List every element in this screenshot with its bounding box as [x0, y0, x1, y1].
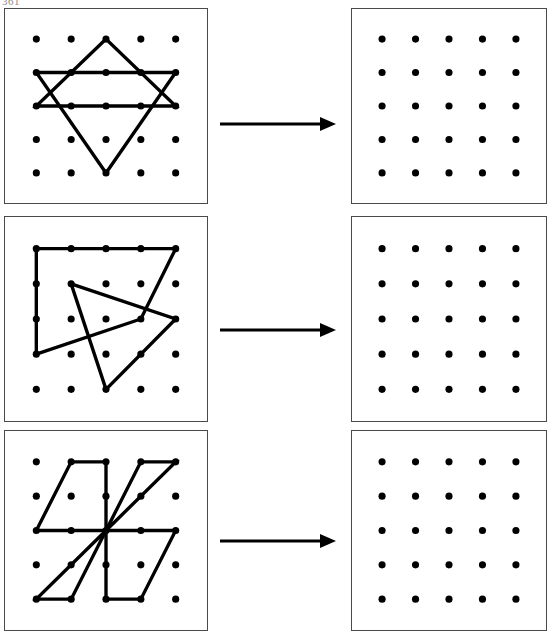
- answer-svg-row-2: [352, 217, 546, 421]
- grid-dot: [512, 169, 519, 176]
- grid-dot: [102, 596, 109, 603]
- grid-dot: [445, 315, 452, 322]
- grid-dot: [412, 169, 419, 176]
- grid-dot: [102, 458, 109, 465]
- grid-dot: [379, 102, 386, 109]
- grid-dot: [172, 596, 179, 603]
- grid-dot: [412, 102, 419, 109]
- right-arrow-icon: [218, 318, 338, 342]
- right-arrow-row-1: [218, 112, 338, 136]
- grid-dot: [102, 527, 109, 534]
- grid-dot: [172, 280, 179, 287]
- right-arrow-icon: [218, 112, 338, 136]
- grid-dot: [137, 458, 144, 465]
- grid-dot: [172, 493, 179, 500]
- grid-dot: [102, 102, 109, 109]
- answer-panel-blank-grid-3[interactable]: [351, 430, 547, 631]
- grid-dot: [512, 561, 519, 568]
- grid-dot: [68, 493, 75, 500]
- grid-dot: [412, 315, 419, 322]
- grid-dot: [412, 596, 419, 603]
- grid-dot: [412, 245, 419, 252]
- grid-dot: [445, 169, 452, 176]
- grid-dot: [33, 136, 40, 143]
- grid-dot: [379, 169, 386, 176]
- grid-dot: [68, 527, 75, 534]
- grid-dot: [172, 527, 179, 534]
- grid-dot: [137, 351, 144, 358]
- grid-dot: [33, 493, 40, 500]
- grid-dot: [68, 561, 75, 568]
- grid-dot: [479, 280, 486, 287]
- grid-dot: [479, 493, 486, 500]
- grid-dot: [445, 596, 452, 603]
- grid-dot: [379, 36, 386, 43]
- grid-dot: [379, 351, 386, 358]
- grid-dot: [172, 102, 179, 109]
- grid-dot: [33, 102, 40, 109]
- grid-dot: [412, 136, 419, 143]
- grid-dot: [137, 596, 144, 603]
- right-arrow-row-3: [218, 529, 338, 553]
- answer-panel-blank-grid-1[interactable]: [351, 8, 547, 204]
- grid-dot: [512, 69, 519, 76]
- grid-dot: [68, 351, 75, 358]
- answer-svg-row-3: [352, 431, 546, 630]
- grid-dot: [68, 596, 75, 603]
- grid-dot: [512, 36, 519, 43]
- answer-panel-blank-grid-2[interactable]: [351, 216, 547, 422]
- grid-dot: [445, 36, 452, 43]
- grid-dot: [379, 527, 386, 534]
- grid-dot: [172, 69, 179, 76]
- grid-dot: [33, 561, 40, 568]
- grid-dot: [512, 102, 519, 109]
- grid-dot: [512, 493, 519, 500]
- grid-dot: [512, 315, 519, 322]
- grid-dot: [379, 458, 386, 465]
- grid-dot: [137, 169, 144, 176]
- grid-dot: [172, 386, 179, 393]
- grid-dot: [479, 36, 486, 43]
- grid-dot: [137, 315, 144, 322]
- grid-dot: [379, 596, 386, 603]
- answer-svg-row-1: [352, 9, 546, 203]
- right-arrow-icon: [218, 529, 338, 553]
- grid-dot: [68, 458, 75, 465]
- grid-dot: [445, 561, 452, 568]
- grid-dot: [33, 351, 40, 358]
- grid-dot: [33, 169, 40, 176]
- grid-dot: [479, 315, 486, 322]
- grid-dot: [379, 386, 386, 393]
- grid-dot: [445, 458, 452, 465]
- grid-dot: [33, 458, 40, 465]
- grid-dot: [412, 69, 419, 76]
- grid-dot: [445, 280, 452, 287]
- grid-dot: [102, 36, 109, 43]
- grid-dot: [102, 245, 109, 252]
- grid-dot: [33, 280, 40, 287]
- figure-panel-pinwheel[interactable]: [4, 430, 208, 631]
- grid-dot: [379, 136, 386, 143]
- figure-panel-quadrilateral-and-triangle[interactable]: [4, 216, 208, 422]
- grid-dot: [379, 315, 386, 322]
- exercise-row-1: [0, 8, 558, 204]
- figure-svg-row-3: [5, 431, 207, 630]
- figure-panel-star-of-david[interactable]: [4, 8, 208, 204]
- grid-dot: [102, 280, 109, 287]
- grid-dot: [33, 596, 40, 603]
- grid-dot: [137, 493, 144, 500]
- grid-dot: [68, 315, 75, 322]
- grid-dot: [137, 102, 144, 109]
- grid-dot: [137, 245, 144, 252]
- worksheet-page: 361: [0, 0, 558, 637]
- grid-dot: [512, 386, 519, 393]
- right-arrow-row-2: [218, 318, 338, 342]
- grid-dot: [479, 351, 486, 358]
- grid-dot: [33, 36, 40, 43]
- grid-dot: [137, 527, 144, 534]
- grid-dot: [512, 527, 519, 534]
- grid-dot: [445, 245, 452, 252]
- grid-dot: [379, 245, 386, 252]
- grid-dot: [172, 169, 179, 176]
- grid-dot: [102, 136, 109, 143]
